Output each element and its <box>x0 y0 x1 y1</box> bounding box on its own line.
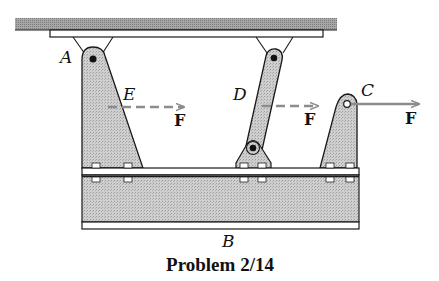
pin-C-icon <box>344 101 351 108</box>
mounting-plate <box>50 30 323 37</box>
force-label-E: F <box>174 111 186 130</box>
label-C: C <box>361 80 374 100</box>
label-B: B <box>221 231 235 251</box>
force-label-C: F <box>405 109 417 128</box>
label-D: D <box>232 84 247 104</box>
pin-A-icon <box>90 56 97 63</box>
pin-D-top-icon <box>271 55 278 62</box>
force-label-D: F <box>304 110 316 129</box>
pin-D-bottom-icon <box>250 145 257 152</box>
ceiling-support <box>15 18 337 30</box>
label-E: E <box>122 84 136 104</box>
problem-diagram: A E D C B F F F Problem 2/14 <box>0 0 439 281</box>
figure-caption: Problem 2/14 <box>166 254 274 275</box>
label-A: A <box>58 47 72 67</box>
beam-B <box>82 168 359 229</box>
